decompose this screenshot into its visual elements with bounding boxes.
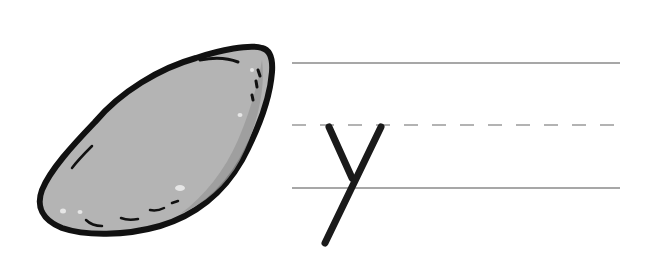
letter-y-glyph (325, 127, 381, 243)
yam-icon (40, 47, 272, 234)
handwriting-worksheet: y yam (0, 0, 660, 267)
